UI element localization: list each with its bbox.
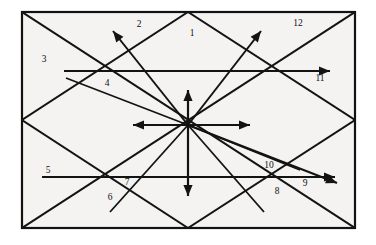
geometric-diagram-canvas: 123456789101112 <box>0 0 376 245</box>
region-label-11: 11 <box>315 73 324 83</box>
region-label-6: 6 <box>108 192 113 202</box>
region-label-1: 1 <box>190 28 195 38</box>
region-label-10: 10 <box>264 160 274 170</box>
region-label-9: 9 <box>303 178 308 188</box>
figure-root: 123456789101112 <box>0 0 376 245</box>
region-label-12: 12 <box>293 18 303 28</box>
region-label-2: 2 <box>137 19 142 29</box>
region-label-4: 4 <box>105 78 110 88</box>
region-label-5: 5 <box>46 165 51 175</box>
region-label-3: 3 <box>42 54 47 64</box>
region-label-7: 7 <box>125 177 130 187</box>
region-label-8: 8 <box>275 186 280 196</box>
